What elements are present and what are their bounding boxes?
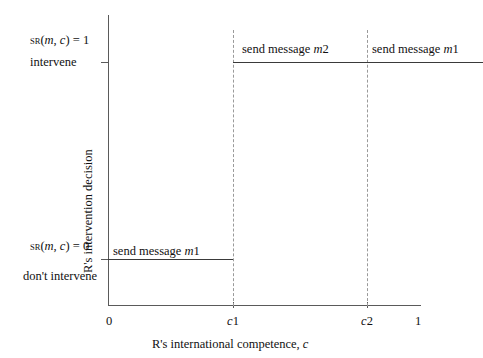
x-tick-label-c1-num: 1	[233, 314, 239, 328]
x-tick-label-one: 1	[412, 314, 424, 329]
x-tick-label-zero: 0	[103, 314, 115, 329]
segment-label-mid-var: m	[314, 42, 323, 56]
segment-label-low-num: 1	[194, 244, 200, 258]
segment-label-mid-num: 2	[323, 42, 329, 56]
segment-label-high-var: m	[444, 42, 453, 56]
x-tick-label-c2-num: 2	[367, 314, 373, 328]
segment-label-low-var: m	[185, 244, 194, 258]
segment-label-low-prefix: send message	[113, 244, 185, 258]
y-tick-intervene	[101, 62, 108, 63]
equals-one-top: ) = 1	[65, 33, 89, 47]
x-axis-title-var: c	[303, 337, 309, 351]
y-axis-title: R's intervention decision	[81, 149, 96, 273]
message-var-bottom: m	[45, 239, 54, 253]
y-label-intervene-equation: SR(m, c) = 1	[30, 34, 89, 47]
segment-mid-competence-m2	[233, 62, 367, 63]
x-axis-line	[108, 305, 421, 306]
segment-low-competence-m1	[108, 259, 233, 260]
threshold-line-c1	[233, 30, 234, 306]
x-axis-title-prefix: R's international competence,	[152, 337, 303, 351]
x-tick-label-c1: c1	[222, 314, 244, 329]
segment-label-high-num: 1	[453, 42, 459, 56]
message-var-top: m	[45, 33, 54, 47]
y-tick-dont-intervene	[101, 259, 108, 260]
segment-label-low-m1: send message m1	[113, 245, 200, 258]
segment-label-mid-m2: send message m2	[242, 43, 329, 56]
y-label-intervene-text: intervene	[30, 56, 77, 69]
x-axis-title: R's international competence, c	[152, 337, 308, 352]
segment-label-mid-prefix: send message	[242, 42, 314, 56]
equilibrium-strategy-diagram: SR(m, c) = 1 intervene SR(m, c) = 0 don'…	[0, 0, 483, 358]
threshold-line-c2	[367, 30, 368, 306]
y-axis-line	[108, 15, 109, 306]
segment-label-high-m1: send message m1	[372, 43, 459, 56]
x-tick-label-c2: c2	[356, 314, 378, 329]
segment-high-competence-m1	[367, 62, 483, 63]
segment-label-high-prefix: send message	[372, 42, 444, 56]
